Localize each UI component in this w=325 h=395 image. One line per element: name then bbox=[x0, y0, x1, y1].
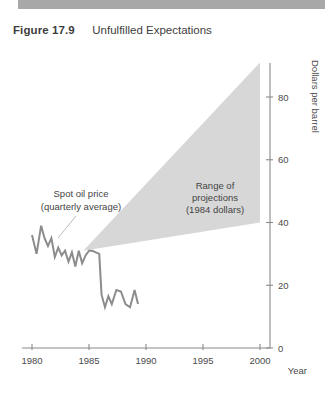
annotation-leader-line bbox=[58, 216, 76, 238]
y-tick-label: 80 bbox=[278, 92, 289, 103]
y-tick-label: 0 bbox=[278, 343, 283, 354]
chart-svg: 020406080 19801985199019952000 Dollars p… bbox=[0, 0, 325, 395]
x-tick-label: 1985 bbox=[78, 355, 99, 366]
chart-canvas: 020406080 19801985199019952000 Dollars p… bbox=[0, 0, 325, 395]
x-tick-label: 1980 bbox=[21, 355, 42, 366]
range-of-projections-wedge bbox=[83, 62, 260, 250]
y-axis-title: Dollars per barrel bbox=[310, 60, 321, 133]
y-tick-label: 60 bbox=[278, 154, 289, 165]
annotation-range-line2: projections bbox=[192, 192, 238, 203]
y-tick-label: 40 bbox=[278, 217, 289, 228]
annotation-spot-oil-price: Spot oil price (quarterly average) bbox=[41, 188, 121, 212]
annotation-range-line1: Range of bbox=[196, 180, 235, 191]
annotation-spot-oil-price-line2: (quarterly average) bbox=[41, 201, 121, 212]
annotation-spot-oil-price-line1: Spot oil price bbox=[54, 188, 109, 199]
annotation-range-line3: (1984 dollars) bbox=[186, 204, 244, 215]
x-axis-title: Year bbox=[288, 365, 307, 376]
x-axis-ticks: 19801985199019952000 bbox=[21, 344, 270, 366]
y-tick-label: 20 bbox=[278, 280, 289, 291]
figure-page: Figure 17.9 Unfulfilled Expectations 020… bbox=[0, 0, 325, 395]
x-tick-label: 1995 bbox=[192, 355, 213, 366]
x-tick-label: 1990 bbox=[135, 355, 156, 366]
y-axis-ticks: 020406080 bbox=[266, 92, 289, 354]
x-tick-label: 2000 bbox=[249, 355, 270, 366]
